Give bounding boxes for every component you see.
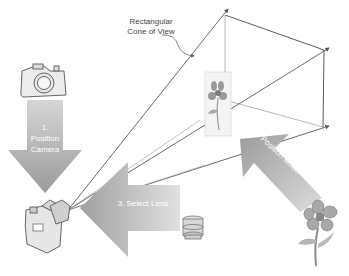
position-model-arrow [240,134,322,212]
flower-model-icon [298,200,337,266]
flower-picture-plane-icon [205,72,231,136]
cone-label-line1: Rectangular [118,17,184,27]
cone-label-line2: Cone of View [118,27,184,37]
step-1-label: 1. Position Camera [22,122,68,155]
step-3-label: 3. Select Lens [113,199,173,208]
step-1-line1: Position [22,133,68,144]
step-1-line2: Camera [22,144,68,155]
step-1-number: 1. [22,122,68,133]
lens-icon [183,216,203,239]
camera-main-icon [25,200,70,253]
cone-of-view-label: Rectangular Cone of View [118,17,184,37]
annotation-leader [162,35,194,56]
camera-top-icon [21,64,66,97]
